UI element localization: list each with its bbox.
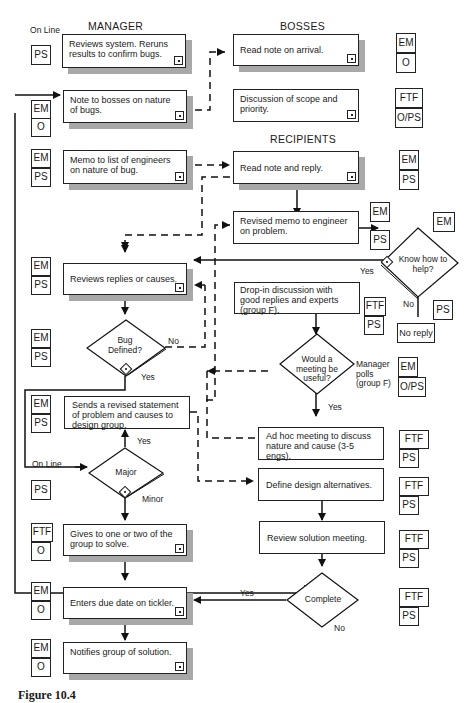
figure-caption: Figure 10.4 <box>18 688 76 703</box>
media-tag: EM <box>31 395 51 414</box>
media-tag: PS <box>31 276 51 295</box>
step-text: Reviews system. Reruns results to confir… <box>69 39 168 59</box>
step-read-note-on-arrival[interactable]: Read note on arrival. <box>233 34 359 66</box>
decision-yes-label: Yes <box>360 267 374 277</box>
step-drop-in-discussion[interactable]: Drop-in discussion with good replies and… <box>234 282 360 314</box>
step-text: Review solution meeting. <box>267 533 367 543</box>
manager-polls-note: Manager polls (group F) <box>356 360 394 389</box>
decision-yes-label: Yes <box>328 403 342 413</box>
decision-bug-defined-label: Bug Defined? <box>100 336 150 355</box>
decision-no-label: No <box>334 624 345 634</box>
decision-yes-label: Yes <box>137 437 151 447</box>
step-reviews-system[interactable]: Reviews system. Reruns results to confir… <box>62 34 186 68</box>
column-header-bosses: BOSSES <box>280 20 325 32</box>
media-tag: O <box>31 601 51 620</box>
step-gives-to-group[interactable]: Gives to one or two of the group to solv… <box>63 524 187 556</box>
step-corner-icon <box>175 111 184 120</box>
media-tag: PS <box>399 449 419 468</box>
step-ad-hoc-meeting[interactable]: Ad hoc meeting to discuss nature and cau… <box>258 427 384 460</box>
step-text: Read note and reply. <box>240 163 323 173</box>
step-text: Notifies group of solution. <box>70 647 172 657</box>
media-tag: EM <box>398 357 418 377</box>
media-tag: O/PS <box>398 377 426 397</box>
decision-yes-label: Yes <box>141 373 155 383</box>
step-corner-icon <box>175 544 184 553</box>
media-tag: FTF <box>31 523 53 542</box>
decision-minor-label: Minor <box>142 495 163 505</box>
media-tag: PS <box>433 300 453 320</box>
media-tag: EM <box>31 149 51 168</box>
media-tag: O/PS <box>395 108 423 128</box>
media-tag: EM <box>31 100 51 119</box>
media-tag: EM <box>399 150 419 170</box>
decision-no-label: No <box>403 300 414 310</box>
step-corner-icon <box>347 110 356 119</box>
media-tag: PS <box>399 549 419 568</box>
media-tag: PS <box>31 414 51 433</box>
media-tag: EM <box>31 329 51 348</box>
media-tag: PS <box>399 607 419 626</box>
step-text: Drop-in discussion with good replies and… <box>240 285 339 315</box>
major-input-label: On Line <box>32 460 62 470</box>
decision-yes-label: Yes <box>240 589 254 599</box>
media-tag: EM <box>370 202 390 222</box>
media-tag: FTF <box>364 297 386 316</box>
media-tag: FTF <box>399 477 429 496</box>
step-discussion-scope[interactable]: Discussion of scope and priority. <box>233 89 359 122</box>
decision-major-label: Major <box>104 468 148 478</box>
media-tag: FTF <box>399 430 429 449</box>
media-tag: O <box>396 53 416 73</box>
column-header-manager: MANAGER <box>88 20 143 32</box>
step-sends-revised-statement[interactable]: Sends a revised statement of problem and… <box>64 396 190 429</box>
step-text: Discussion of scope and priority. <box>240 94 338 114</box>
step-text: Define design alternatives. <box>266 480 372 490</box>
step-text: Note to bosses on nature of bugs. <box>70 95 171 115</box>
decision-no-label: No <box>168 337 179 347</box>
step-reviews-replies[interactable]: Reviews replies or causes. <box>63 263 187 295</box>
step-define-design-alternatives[interactable]: Define design alternatives. <box>258 468 384 501</box>
media-tag: EM <box>31 582 51 601</box>
media-tag: PS <box>31 480 51 500</box>
media-tag: O <box>31 658 51 677</box>
media-tag: FTF <box>399 530 429 549</box>
step-corner-icon <box>347 172 356 181</box>
step-corner-icon <box>174 56 183 65</box>
media-tag: EM <box>31 639 51 658</box>
decision-meeting-useful-label: Would a meeting be useful? <box>295 355 339 384</box>
media-tag: FTF <box>399 588 429 607</box>
media-tag: PS <box>399 170 419 190</box>
decision-know-how-label: Know how to help? <box>397 255 449 274</box>
media-tag: PS <box>31 45 51 65</box>
step-corner-icon <box>175 607 184 616</box>
media-tag: O <box>31 542 51 561</box>
step-text: Ad hoc meeting to discuss nature and cau… <box>266 431 371 461</box>
media-tag: PS <box>399 496 419 515</box>
media-tag: O <box>31 118 51 137</box>
media-tag: EM <box>31 257 51 276</box>
step-text: Reviews replies or causes. <box>70 274 177 284</box>
decision-complete-label: Complete <box>297 595 349 605</box>
step-text: Gives to one or two of the group to solv… <box>70 529 173 549</box>
step-memo-to-engineers[interactable]: Memo to list of engineers on nature of b… <box>63 150 187 184</box>
step-notifies-group[interactable]: Notifies group of solution. <box>63 642 187 674</box>
step-text: Memo to list of engineers on nature of b… <box>70 155 171 175</box>
step-text: Revised memo to engineer on problem. <box>240 216 348 236</box>
media-tag: EM <box>433 212 455 232</box>
column-header-recipients: RECIPIENTS <box>270 133 336 145</box>
media-tag: EM <box>396 33 416 53</box>
step-review-solution-meeting[interactable]: Review solution meeting. <box>259 521 385 554</box>
step-text: Read note on arrival. <box>240 45 324 55</box>
media-tag: PS <box>31 348 51 367</box>
step-corner-icon <box>347 54 356 63</box>
no-reply-box: No reply <box>397 323 435 343</box>
step-corner-icon <box>175 283 184 292</box>
step-corner-icon <box>175 172 184 181</box>
step-note-to-bosses[interactable]: Note to bosses on nature of bugs. <box>63 90 187 123</box>
step-text: Sends a revised statement of problem and… <box>72 400 179 430</box>
step-enters-due-date[interactable]: Enters due date on tickler. <box>63 587 187 619</box>
media-tag: PS <box>31 168 51 187</box>
media-tag: FTF <box>395 88 423 108</box>
media-note-online: On Line <box>30 26 60 36</box>
step-revised-memo[interactable]: Revised memo to engineer on problem. <box>233 211 359 244</box>
step-read-note-and-reply[interactable]: Read note and reply. <box>233 151 359 184</box>
